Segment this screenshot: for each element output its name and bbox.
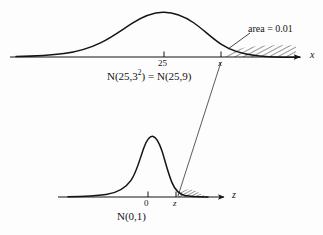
normal-distribution-figure: area = 0.01 25 x x N(25,32) = N(25,9) 0 …: [0, 0, 323, 235]
top-distribution-label: N(25,32) = N(25,9): [107, 71, 191, 82]
bottom-axis-variable-label: z: [232, 190, 236, 200]
top-tick-mean-label: 25: [158, 59, 167, 68]
top-panel-group: [10, 12, 300, 57]
bottom-tick-zero-label: 0: [144, 199, 149, 208]
area-annotation-leader-line: [228, 33, 250, 49]
top-tick-x-label: x: [218, 59, 222, 68]
bottom-panel-group: [58, 136, 224, 197]
top-distribution-prefix: N(25,3: [107, 70, 138, 82]
top-axis-variable-label: x: [310, 50, 314, 60]
area-annotation-label: area = 0.01: [248, 24, 293, 34]
bottom-distribution-label: N(0,1): [117, 211, 146, 222]
figure-canvas: [0, 0, 323, 235]
connector-line-x-to-z: [178, 62, 221, 196]
bottom-normal-curve: [68, 136, 208, 197]
bottom-tick-z-label: z: [173, 199, 177, 208]
top-distribution-suffix: ) = N(25,9): [142, 70, 192, 82]
